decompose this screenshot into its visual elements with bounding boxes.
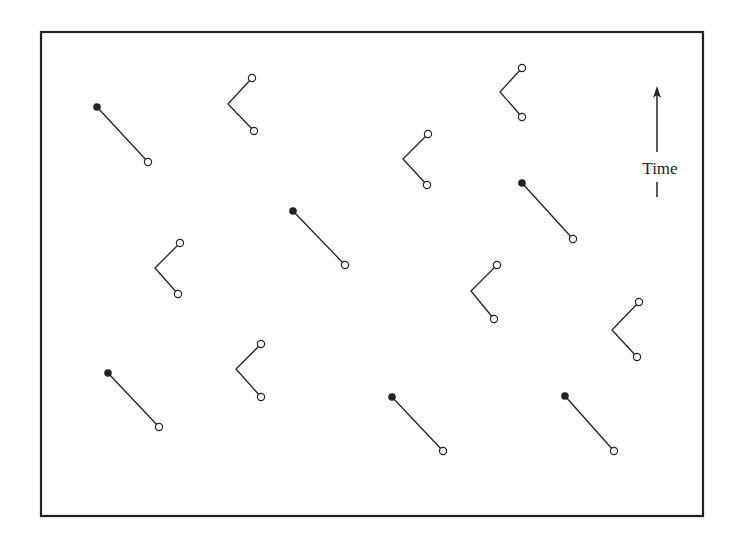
vee-event (500, 64, 526, 120)
filled-dot-icon (289, 207, 297, 215)
open-circle-icon (490, 315, 497, 322)
open-circle-icon (257, 340, 264, 347)
world-line-segment (93, 103, 151, 165)
open-circle-icon (493, 261, 500, 268)
filled-dot-icon (561, 392, 569, 400)
open-circle-icon (610, 447, 617, 454)
time-axis: Time (642, 86, 677, 197)
open-circle-icon (257, 393, 264, 400)
open-circle-icon (633, 353, 640, 360)
world-line-segment (388, 393, 446, 454)
open-circle-icon (635, 298, 642, 305)
segment-line (108, 373, 159, 427)
vee-lines (403, 134, 428, 185)
vee-event (236, 340, 265, 400)
time-axis-label: Time (642, 159, 677, 178)
open-circle-icon (248, 74, 255, 81)
open-circle-icon (174, 290, 181, 297)
world-line-segment (104, 369, 162, 430)
open-circle-icon (569, 235, 576, 242)
filled-dot-icon (104, 369, 112, 377)
vee-event (155, 239, 184, 297)
open-circle-icon (518, 113, 525, 120)
open-circle-icon (144, 158, 151, 165)
open-circle-icon (250, 127, 257, 134)
segment-line (392, 397, 443, 451)
open-circle-icon (423, 181, 430, 188)
vee-lines (471, 265, 497, 319)
vee-lines (500, 68, 522, 117)
diagram-canvas: Time (0, 0, 737, 536)
vee-group (155, 64, 643, 400)
open-circle-icon (155, 423, 162, 430)
open-circle-icon (176, 239, 183, 246)
vee-event (612, 298, 643, 360)
world-line-segment (289, 207, 348, 268)
open-circle-icon (424, 130, 431, 137)
vee-lines (228, 78, 254, 131)
vee-lines (236, 344, 261, 397)
segment-line (293, 211, 345, 265)
vee-event (471, 261, 501, 322)
segment-line (97, 107, 148, 162)
open-circle-icon (518, 64, 525, 71)
world-line-segment (561, 392, 617, 454)
world-line-segment (518, 179, 576, 242)
filled-dot-icon (93, 103, 101, 111)
vee-event (228, 74, 258, 134)
segment-line (565, 396, 614, 451)
segment-group (93, 103, 617, 454)
vee-lines (612, 302, 639, 357)
segment-line (522, 183, 573, 239)
vee-lines (155, 243, 180, 294)
diagram-frame (41, 32, 703, 516)
filled-dot-icon (518, 179, 526, 187)
open-circle-icon (439, 447, 446, 454)
filled-dot-icon (388, 393, 396, 401)
open-circle-icon (341, 261, 348, 268)
vee-event (403, 130, 432, 188)
